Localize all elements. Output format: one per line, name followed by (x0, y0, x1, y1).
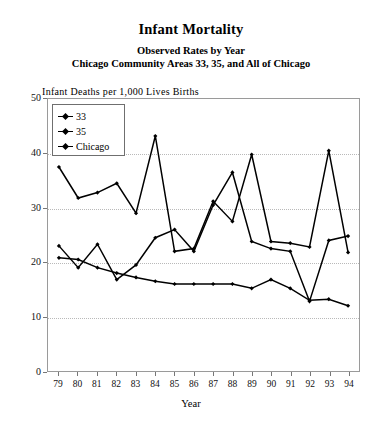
legend-item-35[interactable]: 35 (58, 124, 119, 139)
chart-legend: 3335Chicago (52, 104, 125, 156)
series-line (59, 258, 348, 306)
diamond-marker-icon (58, 112, 73, 122)
data-point-marker (153, 134, 157, 138)
data-point-marker (327, 149, 331, 153)
data-point-marker (346, 234, 350, 238)
y-tick-label: 40 (15, 147, 41, 158)
y-tick-label: 0 (15, 366, 41, 377)
series-chicago (57, 256, 350, 308)
diamond-marker-icon (58, 142, 73, 152)
data-point-marker (269, 239, 273, 243)
data-point-marker (250, 239, 254, 243)
data-point-marker (307, 245, 311, 249)
data-point-marker (134, 275, 138, 279)
data-point-marker (230, 282, 234, 286)
data-point-marker (288, 249, 292, 253)
x-tick-mark (291, 372, 292, 376)
x-tick-mark (330, 372, 331, 376)
x-tick-mark (97, 372, 98, 376)
x-tick-mark (349, 372, 350, 376)
x-tick-mark (310, 372, 311, 376)
x-tick-mark (58, 372, 59, 376)
y-tick-mark (43, 262, 47, 263)
chart-title-block: Infant Mortality Observed Rates by Year … (0, 0, 382, 70)
data-point-marker (211, 282, 215, 286)
y-tick-label: 10 (15, 311, 41, 322)
chart-title: Infant Mortality (0, 22, 382, 38)
y-tick-label: 20 (15, 256, 41, 267)
data-point-marker (57, 256, 61, 260)
data-point-marker (172, 282, 176, 286)
data-point-marker (327, 238, 331, 242)
x-tick-mark (77, 372, 78, 376)
x-tick-mark (116, 372, 117, 376)
legend-item-chicago[interactable]: Chicago (58, 139, 119, 154)
data-point-marker (76, 257, 80, 261)
data-point-marker (327, 297, 331, 301)
x-tick-mark (271, 372, 272, 376)
data-point-marker (269, 247, 273, 251)
infant-mortality-chart: Infant Mortality Observed Rates by Year … (0, 0, 382, 428)
legend-label: Chicago (76, 142, 109, 152)
y-tick-mark (43, 208, 47, 209)
data-point-marker (172, 249, 176, 253)
data-point-marker (346, 304, 350, 308)
x-tick-mark (155, 372, 156, 376)
data-point-marker (95, 266, 99, 270)
y-tick-mark (43, 317, 47, 318)
y-tick-label: 50 (15, 92, 41, 103)
x-tick-mark (213, 372, 214, 376)
x-tick-mark (252, 372, 253, 376)
x-tick-label: 94 (337, 379, 361, 389)
legend-label: 33 (76, 112, 86, 122)
data-point-marker (346, 250, 350, 254)
chart-subtitle-line-1: Observed Rates by Year (0, 45, 382, 57)
legend-item-33[interactable]: 33 (58, 109, 119, 124)
legend-label: 35 (76, 127, 86, 137)
x-tick-mark (194, 372, 195, 376)
chart-subtitle-line-2: Chicago Community Areas 33, 35, and All … (0, 58, 382, 70)
x-tick-mark (136, 372, 137, 376)
y-tick-mark (43, 153, 47, 154)
x-axis-title: Year (0, 398, 382, 409)
x-tick-mark (174, 372, 175, 376)
data-point-marker (288, 241, 292, 245)
data-point-marker (192, 282, 196, 286)
data-point-marker (250, 152, 254, 156)
data-point-marker (153, 279, 157, 283)
series-line (59, 172, 348, 301)
y-axis-title: Infant Deaths per 1,000 Lives Births (42, 86, 199, 97)
y-tick-label: 30 (15, 202, 41, 213)
data-point-marker (115, 271, 119, 275)
x-tick-mark (233, 372, 234, 376)
diamond-marker-icon (58, 127, 73, 137)
y-tick-mark (43, 372, 47, 373)
y-tick-mark (43, 98, 47, 99)
